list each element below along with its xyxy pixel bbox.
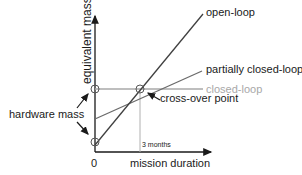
crossover-arrow (148, 93, 160, 100)
x-axis-label: mission duration (130, 157, 210, 169)
y-axis-label: equivalent mass (80, 0, 94, 84)
origin-label: 0 (91, 157, 97, 169)
series-label-partially-closed-loop: partially closed-loop (206, 63, 302, 75)
hardware-mass-label: hardware mass (9, 108, 84, 120)
tick-label-3-months: 3 months (142, 141, 171, 148)
open-loop-line (95, 14, 203, 145)
hardware-arrow-down (77, 122, 88, 134)
hardware-arrow-up (77, 94, 88, 108)
crossover-label: cross-over point (160, 92, 238, 104)
series-label-open-loop: open-loop (206, 6, 255, 18)
